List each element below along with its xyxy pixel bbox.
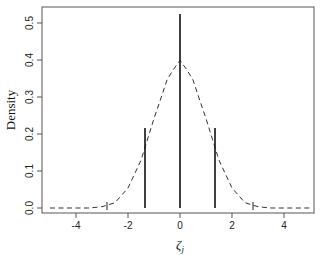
y-tick-labels: 0.0 0.1 0.2 0.3 0.4 0.5 [24,16,35,215]
point-mass-lines [145,14,215,208]
density-chart: 0.0 0.1 0.2 0.3 0.4 0.5 Density -4 -2 0 … [0,0,320,255]
svg-text:2: 2 [229,220,235,231]
svg-text:0.0: 0.0 [24,201,35,215]
svg-text:0.1: 0.1 [24,164,35,178]
plot-frame [42,7,314,213]
y-axis [37,23,42,208]
svg-text:0.4: 0.4 [24,53,35,67]
y-axis-title: Density [3,89,18,130]
svg-text:-4: -4 [72,220,81,231]
svg-text:0.2: 0.2 [24,127,35,141]
x-axis [76,213,284,218]
svg-text:0.5: 0.5 [24,16,35,30]
x-tick-labels: -4 -2 0 2 4 [72,220,288,231]
svg-text:-2: -2 [124,220,133,231]
svg-text:4: 4 [281,220,287,231]
x-axis-title: ζj [176,237,184,254]
svg-text:0.3: 0.3 [24,90,35,104]
svg-text:0: 0 [177,220,183,231]
